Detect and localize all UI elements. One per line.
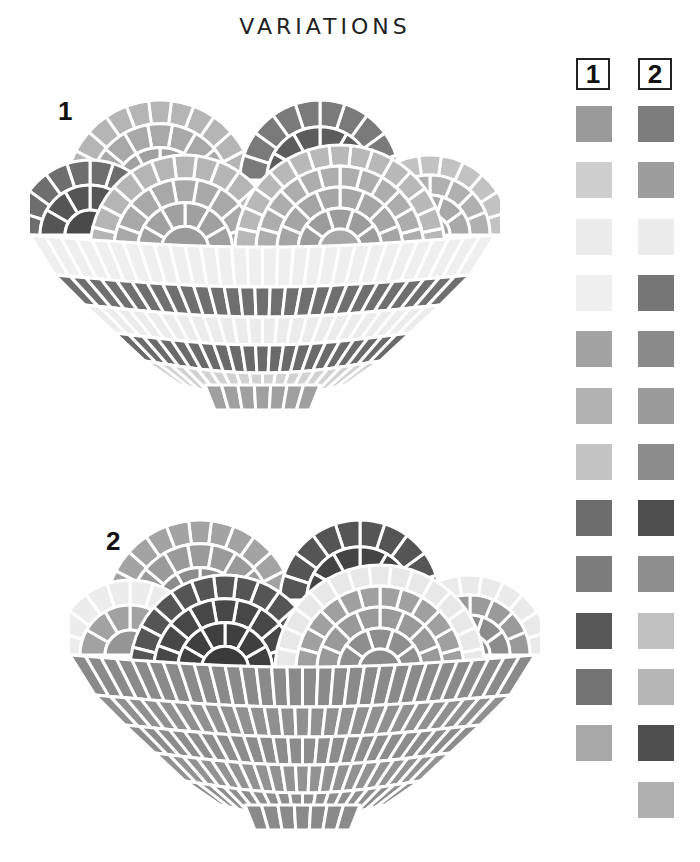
swatch-col2-1 xyxy=(638,106,674,142)
swatch-col2-9 xyxy=(638,556,674,592)
swatch-col1-3 xyxy=(576,219,612,255)
swatch-col2-7 xyxy=(638,444,674,480)
swatch-col1-9 xyxy=(576,556,612,592)
swatch-col2-2 xyxy=(638,162,674,198)
swatch-col2-12 xyxy=(638,725,674,761)
swatch-col1-8 xyxy=(576,500,612,536)
swatch-col1-6 xyxy=(576,388,612,424)
mosaic-bowl-variation-1 xyxy=(30,85,500,420)
swatch-col2-3 xyxy=(638,219,674,255)
swatch-col2-6 xyxy=(638,388,674,424)
palette-column-2-header: 2 xyxy=(638,58,672,90)
swatch-col1-2 xyxy=(576,162,612,198)
swatch-col2-11 xyxy=(638,669,674,705)
swatch-col2-13 xyxy=(638,782,674,818)
swatch-col1-12 xyxy=(576,725,612,761)
swatch-col2-5 xyxy=(638,331,674,367)
swatch-col1-1 xyxy=(576,106,612,142)
title-text: VARIATIONS xyxy=(239,14,410,39)
swatch-col1-11 xyxy=(576,669,612,705)
swatch-col1-4 xyxy=(576,275,612,311)
swatch-col1-7 xyxy=(576,444,612,480)
palette-column-1-header: 1 xyxy=(576,58,610,90)
swatch-col2-8 xyxy=(638,500,674,536)
swatch-col1-5 xyxy=(576,331,612,367)
mosaic-bowl-variation-2 xyxy=(70,505,540,840)
page-title: VARIATIONS xyxy=(0,14,700,39)
swatch-col2-4 xyxy=(638,275,674,311)
swatch-col1-10 xyxy=(576,613,612,649)
swatch-col2-10 xyxy=(638,613,674,649)
